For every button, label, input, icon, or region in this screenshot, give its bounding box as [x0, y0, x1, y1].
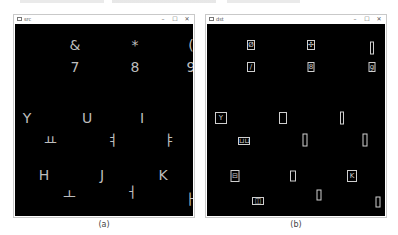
rendered-glyph: (	[188, 38, 193, 52]
rendered-glyph: H	[39, 168, 50, 182]
tofu-glyph-box: g	[369, 62, 376, 72]
tofu-glyph-box: 8	[308, 62, 315, 72]
tofu-glyph-box: /	[247, 62, 255, 72]
tofu-glyph-box	[303, 134, 308, 147]
close-button[interactable]: ✕	[182, 15, 192, 23]
tofu-glyph-box: ◫	[252, 197, 264, 205]
tofu-glyph-box	[363, 134, 368, 147]
tofu-glyph-box	[317, 190, 322, 201]
rendered-glyph: U	[82, 111, 92, 125]
cropped-text-strip	[20, 0, 300, 3]
rendered-glyph: ㅏ	[184, 192, 194, 206]
rendered-glyph: ㅑ	[163, 133, 176, 147]
tofu-glyph-box: K	[347, 170, 357, 182]
tofu-glyph-box: Ø	[247, 40, 255, 50]
rendered-glyph: J	[100, 168, 104, 182]
rendered-glyph: 9	[187, 60, 193, 74]
tofu-glyph-box	[370, 42, 374, 55]
rendered-glyph: K	[158, 168, 167, 182]
src-canvas: &*(789YUIㅛㅕㅑHJKㅗㅓㅏ	[15, 24, 193, 216]
rendered-glyph: ㅛ	[44, 133, 57, 147]
rendered-glyph: ㅕ	[106, 133, 119, 147]
rendered-glyph: &	[70, 38, 81, 52]
app-icon	[209, 17, 214, 21]
rendered-glyph: 8	[131, 60, 140, 74]
minimize-button[interactable]: –	[158, 15, 168, 23]
caption-b: (b)	[290, 220, 301, 229]
tofu-glyph-box: Y	[215, 112, 227, 124]
tofu-glyph-box: ⊟	[231, 170, 240, 182]
window-title: dst	[216, 15, 224, 23]
app-icon	[17, 17, 22, 21]
tofu-glyph-box	[290, 171, 296, 182]
caption-a: (a)	[98, 220, 109, 229]
tofu-glyph-box	[279, 112, 287, 124]
dst-window: dst – ☐ ✕ Ø✣/8gY⊔⊔⊟K◫	[205, 14, 387, 218]
window-title: src	[24, 15, 31, 23]
rendered-glyph: ㅓ	[125, 185, 138, 199]
title-bar[interactable]: dst – ☐ ✕	[206, 15, 386, 24]
tofu-glyph-box: ⊔⊔	[238, 137, 250, 145]
rendered-glyph: Y	[23, 111, 32, 125]
rendered-glyph: 7	[71, 60, 80, 74]
tofu-glyph-box: ✣	[307, 40, 315, 50]
maximize-button[interactable]: ☐	[362, 15, 372, 23]
dst-canvas: Ø✣/8gY⊔⊔⊟K◫	[207, 24, 385, 216]
rendered-glyph: *	[132, 38, 139, 52]
rendered-glyph: ㅗ	[63, 187, 76, 201]
title-bar[interactable]: src – ☐ ✕	[14, 15, 194, 24]
maximize-button[interactable]: ☐	[170, 15, 180, 23]
src-window: src – ☐ ✕ &*(789YUIㅛㅕㅑHJKㅗㅓㅏ	[13, 14, 195, 218]
rendered-glyph: I	[140, 111, 144, 125]
tofu-glyph-box	[376, 197, 381, 208]
close-button[interactable]: ✕	[374, 15, 384, 23]
minimize-button[interactable]: –	[350, 15, 360, 23]
tofu-glyph-box	[340, 112, 344, 125]
